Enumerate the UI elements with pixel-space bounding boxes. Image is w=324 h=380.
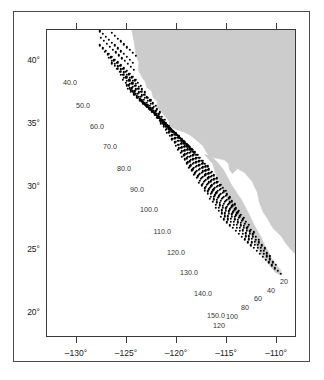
station-dot xyxy=(122,43,124,45)
station-dot xyxy=(271,261,273,263)
station-dot xyxy=(124,60,126,62)
station-dot xyxy=(115,51,117,53)
station-dot xyxy=(132,61,134,63)
station-dot xyxy=(260,246,262,248)
station-dot xyxy=(226,218,228,220)
line-number-label: 60.0 xyxy=(90,122,104,131)
station-dot xyxy=(241,235,243,237)
station-dot xyxy=(125,46,127,48)
station-dot xyxy=(248,235,250,237)
station-dot xyxy=(274,267,276,269)
longitude-tick-label: –130° xyxy=(65,348,87,358)
station-dot xyxy=(201,184,203,186)
station-dot xyxy=(277,270,279,272)
station-dot xyxy=(119,40,121,42)
station-dot xyxy=(192,174,194,176)
station-dot xyxy=(259,250,261,252)
station-number-label: 120 xyxy=(213,320,225,329)
station-dot xyxy=(271,264,273,266)
station-dot xyxy=(221,209,223,211)
station-dot xyxy=(220,215,222,217)
longitude-tick-bottom xyxy=(226,337,227,343)
station-dot xyxy=(224,212,226,214)
station-dot xyxy=(229,221,231,223)
longitude-tick-label: –110° xyxy=(265,348,287,358)
station-dot xyxy=(244,235,246,237)
station-dot xyxy=(268,258,270,260)
station-dot xyxy=(113,35,115,37)
station-dot xyxy=(266,252,268,254)
longitude-tick-bottom xyxy=(276,337,277,343)
longitude-tick-bottom xyxy=(76,337,77,343)
station-dot xyxy=(239,226,241,228)
latitude-tick-label: 40° xyxy=(18,55,40,65)
latitude-tick-label: 20° xyxy=(18,307,40,317)
station-number-label: 80 xyxy=(241,303,249,312)
station-dot xyxy=(256,250,258,252)
station-dot xyxy=(129,59,131,61)
station-dot xyxy=(218,206,220,208)
station-dot xyxy=(263,249,265,251)
station-dot xyxy=(212,201,214,203)
station-dot xyxy=(257,244,259,246)
map-plot-area: 40.050.060.070.080.090.0100.0110.0120.01… xyxy=(46,29,296,337)
station-dot xyxy=(116,37,118,39)
station-dot xyxy=(280,273,282,275)
station-dot xyxy=(128,49,130,51)
station-dot xyxy=(103,40,105,42)
station-dot xyxy=(253,247,255,249)
longitude-tick-label: –120° xyxy=(165,348,187,358)
line-number-label: 90.0 xyxy=(130,185,144,194)
station-number-label: 100 xyxy=(226,312,238,321)
station-dot xyxy=(105,36,107,38)
station-dot xyxy=(251,238,253,240)
station-dot xyxy=(265,258,267,260)
station-dot xyxy=(262,255,264,257)
line-number-label: 110.0 xyxy=(154,226,171,235)
station-dot xyxy=(198,181,200,183)
station-number-label: 20 xyxy=(280,276,288,285)
latitude-tick-label: 30° xyxy=(18,181,40,191)
station-dot xyxy=(223,218,225,220)
station-dots-layer xyxy=(47,30,295,336)
station-dot xyxy=(100,37,102,39)
station-dot xyxy=(206,192,208,194)
station-dot xyxy=(220,212,222,214)
station-dot xyxy=(118,54,120,56)
station-dot xyxy=(120,50,122,52)
station-dot xyxy=(106,43,108,45)
line-number-label: 120.0 xyxy=(167,247,185,256)
line-number-label: 100.0 xyxy=(140,205,158,214)
station-dot xyxy=(131,52,133,54)
station-dot xyxy=(262,252,264,254)
station-dot xyxy=(123,53,125,55)
station-dot xyxy=(229,224,231,226)
station-dot xyxy=(102,47,104,49)
station-dot xyxy=(238,229,240,231)
station-dot xyxy=(117,47,119,49)
longitude-tick-label: –125° xyxy=(115,348,137,358)
station-dot xyxy=(274,264,276,266)
line-number-label: 40.0 xyxy=(63,78,77,87)
station-dot xyxy=(99,30,101,32)
station-dot xyxy=(108,39,110,41)
station-dot xyxy=(152,102,154,104)
station-dot xyxy=(226,221,228,223)
station-dot xyxy=(209,198,211,200)
figure-root: 40°35°30°25°20° –130°–125°–120°–115°–110… xyxy=(0,0,324,380)
line-number-label: 50.0 xyxy=(76,100,90,109)
station-dot xyxy=(265,255,267,257)
longitude-tick-label: –115° xyxy=(215,348,237,358)
station-dot xyxy=(114,44,116,46)
station-dot xyxy=(253,244,255,246)
station-dot xyxy=(232,224,234,226)
station-dot xyxy=(99,44,101,46)
station-dot xyxy=(241,232,243,234)
station-dot xyxy=(127,63,129,65)
station-number-label: 60 xyxy=(254,294,262,303)
station-dot xyxy=(112,48,114,50)
station-dot xyxy=(203,190,205,192)
station-dot xyxy=(215,203,217,205)
station-dot xyxy=(121,79,123,81)
station-dot xyxy=(250,241,252,243)
